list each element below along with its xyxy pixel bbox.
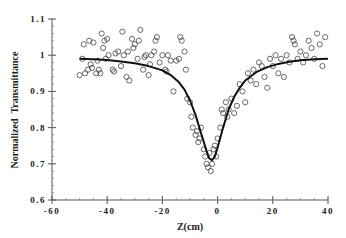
z-scan-chart: -60-40-20020400.60.70.80.911.1 Z(cm) Nor… bbox=[0, 0, 346, 238]
fit-curve bbox=[80, 59, 328, 160]
y-tick-label: 0.8 bbox=[30, 123, 46, 133]
data-point-circle bbox=[160, 53, 165, 58]
data-point-circle bbox=[83, 71, 88, 76]
data-point-circle bbox=[157, 60, 162, 65]
x-axis-title: Z(cm) bbox=[177, 221, 203, 233]
data-point-circle bbox=[165, 53, 170, 58]
data-point-circle bbox=[138, 27, 143, 32]
data-point-circle bbox=[245, 71, 250, 76]
data-point-circle bbox=[152, 49, 157, 54]
plot-area bbox=[77, 27, 328, 173]
data-point-circle bbox=[254, 82, 259, 87]
data-point-circle bbox=[81, 42, 86, 47]
data-point-circle bbox=[281, 74, 286, 79]
data-point-circle bbox=[251, 67, 256, 72]
data-point-circle bbox=[234, 103, 239, 108]
data-point-circle bbox=[149, 53, 154, 58]
data-point-circle bbox=[209, 161, 214, 166]
data-point-circle bbox=[278, 56, 283, 61]
data-point-circle bbox=[298, 49, 303, 54]
data-point-circle bbox=[127, 78, 132, 83]
data-point-circle bbox=[276, 71, 281, 76]
data-point-circle bbox=[273, 53, 278, 58]
data-point-circle bbox=[262, 74, 267, 79]
x-tick-label: 0 bbox=[215, 206, 221, 216]
y-tick-label: 0.6 bbox=[30, 195, 46, 205]
data-point-circle bbox=[320, 63, 325, 68]
data-point-circle bbox=[208, 168, 213, 173]
data-point-circle bbox=[135, 56, 140, 61]
data-point-circle bbox=[232, 111, 237, 116]
x-tick-label: -60 bbox=[44, 206, 61, 216]
data-point-circle bbox=[171, 89, 176, 94]
y-tick-label: 0.9 bbox=[30, 86, 46, 96]
data-point-circle bbox=[106, 53, 111, 58]
data-point-circle bbox=[267, 56, 272, 61]
data-point-circle bbox=[77, 73, 82, 78]
data-point-circle bbox=[309, 45, 314, 50]
data-point-circle bbox=[303, 53, 308, 58]
data-point-circle bbox=[129, 36, 134, 41]
y-tick-label: 0.7 bbox=[30, 159, 46, 169]
y-tick-label: 1 bbox=[40, 50, 46, 60]
data-point-circle bbox=[124, 74, 129, 79]
data-point-circle bbox=[265, 85, 270, 90]
data-point-circle bbox=[314, 31, 319, 36]
y-tick-label: 1.1 bbox=[30, 14, 46, 24]
data-point-circle bbox=[168, 58, 173, 63]
data-point-circle bbox=[118, 63, 123, 68]
y-axis-title: Normalized Transmittance bbox=[9, 51, 20, 168]
x-tick-label: -40 bbox=[99, 206, 116, 216]
data-point-circle bbox=[240, 89, 245, 94]
x-tick-label: 20 bbox=[267, 206, 279, 216]
data-point-circle bbox=[323, 35, 328, 40]
x-tick-label: -20 bbox=[154, 206, 171, 216]
data-point-circle bbox=[125, 49, 130, 54]
data-point-circle bbox=[243, 100, 248, 105]
data-point-circle bbox=[223, 100, 228, 105]
data-point-circle bbox=[100, 45, 105, 50]
x-tick-label: 40 bbox=[322, 206, 334, 216]
data-point-circle bbox=[284, 53, 289, 58]
data-point-circle bbox=[183, 67, 188, 72]
data-point-circle bbox=[306, 38, 311, 43]
data-point-circle bbox=[256, 60, 261, 65]
data-point-circle bbox=[120, 29, 125, 34]
data-point-circle bbox=[182, 49, 187, 54]
data-point-circle bbox=[140, 67, 145, 72]
data-point-circle bbox=[146, 73, 151, 78]
data-point-circle bbox=[189, 114, 194, 119]
data-point-circle bbox=[99, 31, 104, 36]
axes: -60-40-20020400.60.70.80.911.1 bbox=[30, 14, 334, 216]
data-point-circle bbox=[317, 42, 322, 47]
data-point-circle bbox=[136, 38, 141, 43]
data-points bbox=[77, 27, 328, 173]
